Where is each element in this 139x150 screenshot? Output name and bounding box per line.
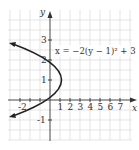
grid <box>8 10 132 140</box>
y-tick-label: 1 <box>41 75 47 85</box>
y-axis-label: y <box>39 7 46 17</box>
x-tick-label: 4 <box>88 102 94 112</box>
equation-label: x = −2(y − 1)² + 3 <box>55 46 136 56</box>
x-tick-label: 6 <box>108 102 114 112</box>
x-tick-label: 2 <box>68 102 74 112</box>
x-tick-label: 1 <box>58 102 64 112</box>
x-tick-label: 7 <box>118 102 124 112</box>
parabola-graph: -2 1 2 3 4 5 6 7 3 2 1 -1 x y x = −2(y −… <box>0 0 139 150</box>
x-axis-label: x <box>132 103 137 113</box>
y-tick-label: 3 <box>41 35 47 45</box>
y-tick-label: -1 <box>37 115 46 125</box>
tick-labels: -2 1 2 3 4 5 6 7 3 2 1 -1 x y <box>18 7 137 125</box>
x-tick-label: 5 <box>98 102 104 112</box>
x-axis-arrow-icon <box>130 98 137 103</box>
axes <box>8 11 137 141</box>
x-tick-label: 3 <box>78 102 84 112</box>
y-axis-arrow-icon <box>48 11 53 18</box>
